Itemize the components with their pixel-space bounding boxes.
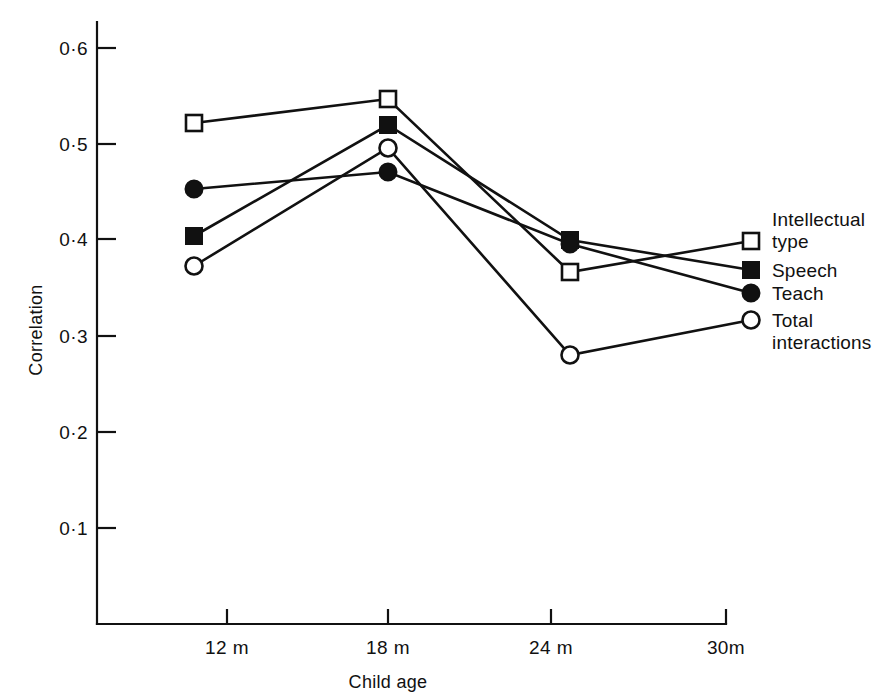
data-point-intellectual-type-18m xyxy=(380,91,396,107)
y-tick-label-0-4: 0·4 xyxy=(59,229,88,250)
figure-container: 0·1 0·2 0·3 0·4 0·5 0·6 12 m 18 m 24 m 3… xyxy=(0,0,879,697)
legend-label-intellectual-type-line2: type xyxy=(772,231,809,252)
data-point-intellectual-type-12m xyxy=(186,115,202,131)
x-tick-label-24m: 24 m xyxy=(529,637,573,658)
x-tick-group: 12 m 18 m 24 m 30m xyxy=(205,609,745,658)
legend: Intellectual type Speech Teach Total int… xyxy=(772,209,872,353)
legend-item-speech[interactable]: Speech xyxy=(772,260,838,281)
data-point-intellectual-type-30m xyxy=(743,233,759,249)
y-tick-label-0-1: 0·1 xyxy=(59,518,88,539)
x-tick-label-12m: 12 m xyxy=(205,637,249,658)
markers-intellectual-type xyxy=(186,91,759,280)
data-point-speech-12m xyxy=(186,228,202,244)
legend-label-intellectual-type-line1: Intellectual xyxy=(772,209,865,230)
data-point-speech-18m xyxy=(380,117,396,133)
data-point-total-interactions-18m xyxy=(380,140,397,157)
y-tick-label-0-5: 0·5 xyxy=(59,134,88,155)
legend-item-total-interactions[interactable]: Total interactions xyxy=(772,310,872,353)
data-point-teach-12m xyxy=(186,181,203,198)
data-point-teach-30m xyxy=(743,285,760,302)
legend-label-speech: Speech xyxy=(772,260,838,281)
legend-label-total-interactions-line1: Total xyxy=(772,310,813,331)
series-line-teach xyxy=(194,172,751,293)
y-tick-label-0-3: 0·3 xyxy=(59,326,88,347)
data-point-teach-24m xyxy=(562,236,579,253)
markers-teach xyxy=(186,164,760,302)
legend-label-total-interactions-line2: interactions xyxy=(772,332,872,353)
legend-item-intellectual-type[interactable]: Intellectual type xyxy=(772,209,865,252)
y-tick-label-0-6: 0·6 xyxy=(59,38,88,59)
x-axis-title: Child age xyxy=(349,672,428,692)
axis-group xyxy=(97,22,726,624)
legend-label-teach: Teach xyxy=(772,283,824,304)
markers-total-interactions xyxy=(186,140,760,364)
data-point-total-interactions-30m xyxy=(743,312,760,329)
legend-item-teach[interactable]: Teach xyxy=(772,283,824,304)
data-point-total-interactions-12m xyxy=(186,258,203,275)
y-tick-group: 0·1 0·2 0·3 0·4 0·5 0·6 xyxy=(59,38,116,539)
x-tick-label-18m: 18 m xyxy=(366,637,410,658)
data-point-speech-30m xyxy=(743,262,759,278)
series-lines-group xyxy=(194,99,751,355)
correlation-line-chart: 0·1 0·2 0·3 0·4 0·5 0·6 12 m 18 m 24 m 3… xyxy=(0,0,879,697)
data-point-total-interactions-24m xyxy=(562,347,579,364)
series-line-speech xyxy=(194,125,751,270)
data-point-intellectual-type-24m xyxy=(562,264,578,280)
x-tick-label-30m: 30m xyxy=(707,637,745,658)
data-point-teach-18m xyxy=(380,164,397,181)
y-tick-label-0-2: 0·2 xyxy=(59,422,88,443)
y-axis-title: Correlation xyxy=(26,284,46,375)
